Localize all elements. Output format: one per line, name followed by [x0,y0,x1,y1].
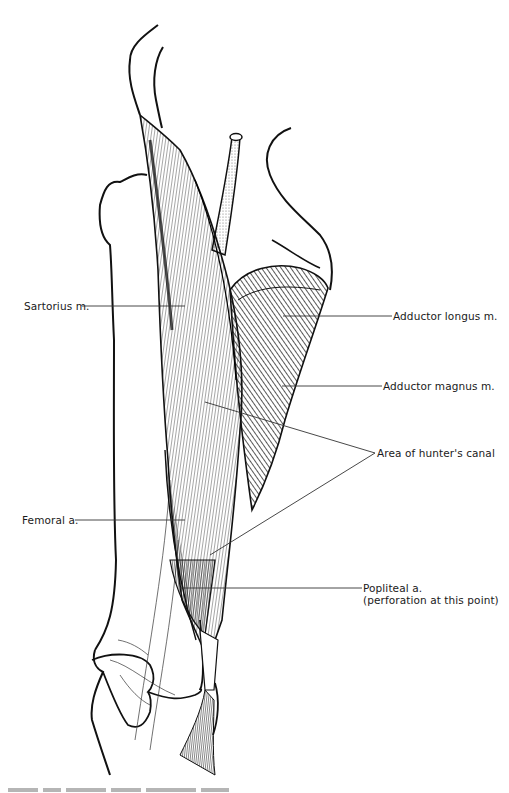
label-popliteal-artery: Popliteal a. [363,582,422,594]
caption-fragment [201,788,229,792]
adductor-muscles [230,240,328,510]
caption-fragment [111,788,141,792]
caption-fragment [43,788,61,792]
label-hunters-canal: Area of hunter's canal [377,447,495,459]
tendon-fan [180,630,218,775]
figure-caption-cropped [8,786,234,793]
label-adductor-longus: Adductor longus m. [393,310,497,322]
caption-fragment [8,788,38,792]
label-sartorius: Sartorius m. [24,300,89,312]
label-popliteal-note: (perforation at this point) [363,594,499,606]
femur-outline [92,174,147,775]
caption-fragment [66,788,106,792]
label-adductor-magnus: Adductor magnus m. [383,380,495,392]
caption-fragment [146,788,196,792]
label-femoral-artery: Femoral a. [22,514,78,526]
knee-thin-lines [110,480,178,750]
anatomy-illustration [0,0,509,793]
